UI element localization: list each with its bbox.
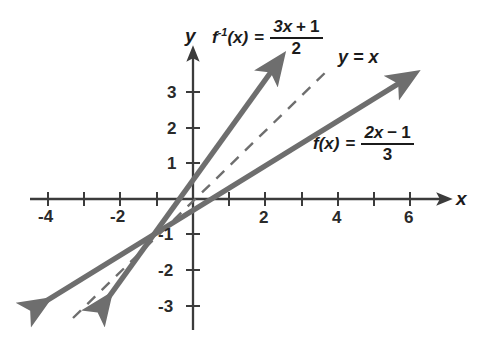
f-inverse-fraction: 3x+1 2 xyxy=(270,18,322,58)
f-inverse-equals-sign: = xyxy=(254,29,264,46)
x-tick-label-6: 6 xyxy=(404,209,413,226)
f-inverse-num-constant: 1 xyxy=(310,17,319,36)
f-inverse-num-coefficient: 3x xyxy=(273,17,292,36)
f-inverse-argument: (x) xyxy=(227,29,248,46)
x-tick-label-4: 4 xyxy=(332,209,341,226)
y-tick-label-3: 3 xyxy=(167,84,176,101)
f-inverse-numerator: 3x+1 xyxy=(270,18,322,37)
x-tick-label-neg4: -4 xyxy=(38,208,53,225)
f-num-constant: 1 xyxy=(401,123,410,142)
f-inverse-denominator: 2 xyxy=(270,37,322,58)
f-inverse-num-operator: + xyxy=(296,17,306,36)
label-f-equation: f(x) = 2x−1 3 xyxy=(313,124,414,164)
identity-line-y-equals-x xyxy=(73,67,331,318)
f-argument: (x) xyxy=(319,135,340,152)
x-axis-label: x xyxy=(456,189,467,208)
f-denominator: 3 xyxy=(361,143,413,164)
y-tick-label-2: 2 xyxy=(167,120,176,137)
label-identity-equation: y = x xyxy=(338,48,379,66)
y-tick-label-neg1: -1 xyxy=(158,226,173,243)
f-numerator: 2x−1 xyxy=(361,124,413,143)
y-tick-label-neg2: -2 xyxy=(158,262,173,279)
f-den-value: 3 xyxy=(383,145,392,164)
y-tick-label-1: 1 xyxy=(167,155,176,172)
y-axis-label: y xyxy=(185,26,196,45)
f-inverse-den-value: 2 xyxy=(292,39,301,58)
f-num-coefficient: 2x xyxy=(364,123,383,142)
label-f-inverse-equation: f-1(x) = 3x+1 2 xyxy=(212,18,323,58)
f-equals-sign: = xyxy=(345,135,355,152)
f-num-operator: − xyxy=(387,123,397,142)
f-inverse-exponent: -1 xyxy=(218,27,228,38)
line-f-of-x xyxy=(38,79,406,306)
graph-figure: y x -4 -2 2 4 6 3 2 1 -1 -2 -3 f-1(x) = … xyxy=(0,0,481,343)
x-tick-label-neg2: -2 xyxy=(110,208,125,225)
x-tick-label-2: 2 xyxy=(259,209,268,226)
y-tick-label-neg3: -3 xyxy=(158,298,173,315)
f-fraction: 2x−1 3 xyxy=(361,124,413,164)
